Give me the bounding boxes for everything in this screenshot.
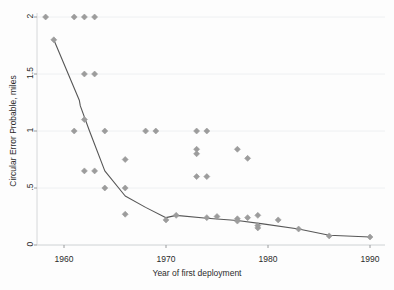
data-point-marker bbox=[51, 37, 57, 43]
data-point-marker bbox=[92, 71, 98, 77]
data-point-marker bbox=[81, 14, 87, 20]
data-point-marker bbox=[194, 174, 200, 180]
data-point-marker bbox=[245, 155, 251, 161]
data-point-marker bbox=[194, 151, 200, 157]
data-point-marker bbox=[367, 234, 373, 240]
data-point-marker bbox=[204, 128, 210, 134]
data-point-marker bbox=[255, 212, 261, 218]
tick-marks-group bbox=[34, 17, 370, 248]
chart-figure: 1960197019801990 0.511.52 Circular Error… bbox=[0, 0, 394, 290]
data-point-markers bbox=[43, 14, 373, 240]
data-point-marker bbox=[81, 71, 87, 77]
y-tick-label-1: 1 bbox=[25, 124, 35, 136]
y-tick-label-0: 0 bbox=[25, 238, 35, 250]
data-point-marker bbox=[92, 14, 98, 20]
data-point-marker bbox=[194, 128, 200, 134]
y-tick-label-1.5: 1.5 bbox=[25, 67, 35, 79]
y-tick-label-.5: .5 bbox=[25, 181, 35, 193]
data-point-marker bbox=[153, 128, 159, 134]
scatter-plot-canvas bbox=[0, 0, 394, 290]
data-point-marker bbox=[43, 14, 49, 20]
data-point-marker bbox=[102, 185, 108, 191]
y-axis-label: Circular Error Probable, miles bbox=[8, 56, 18, 206]
trend-line-path bbox=[54, 40, 370, 237]
data-point-marker bbox=[326, 233, 332, 239]
data-point-marker bbox=[71, 128, 77, 134]
data-point-marker bbox=[122, 157, 128, 163]
data-point-marker bbox=[92, 168, 98, 174]
data-point-marker bbox=[122, 185, 128, 191]
data-point-marker bbox=[173, 212, 179, 218]
trend-line bbox=[54, 40, 370, 237]
data-point-marker bbox=[81, 168, 87, 174]
data-point-marker bbox=[296, 226, 302, 232]
data-point-marker bbox=[275, 217, 281, 223]
x-tick-label-1990: 1990 bbox=[361, 254, 380, 264]
data-point-marker bbox=[245, 215, 251, 221]
data-point-marker bbox=[71, 14, 77, 20]
x-tick-label-1970: 1970 bbox=[157, 254, 176, 264]
data-point-marker bbox=[163, 217, 169, 223]
data-point-marker bbox=[234, 146, 240, 152]
x-tick-label-1960: 1960 bbox=[55, 254, 74, 264]
x-axis-label: Year of first deployment bbox=[0, 268, 394, 278]
data-point-marker bbox=[122, 211, 128, 217]
data-point-marker bbox=[143, 128, 149, 134]
data-point-marker bbox=[204, 215, 210, 221]
y-tick-label-2: 2 bbox=[25, 10, 35, 22]
data-point-marker bbox=[102, 128, 108, 134]
x-tick-label-1980: 1980 bbox=[259, 254, 278, 264]
data-point-marker bbox=[204, 174, 210, 180]
